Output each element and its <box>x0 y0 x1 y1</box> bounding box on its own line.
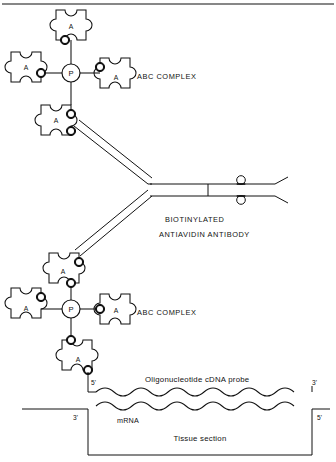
avidin-subunit-left-lower: A <box>5 288 47 318</box>
antibody-label-line1: BIOTINYLATED <box>165 215 224 224</box>
avidin-subunit-bottom-lower: A <box>56 335 98 374</box>
avidin-subunit-right-upper: A <box>94 58 136 88</box>
biotinylated-antiavidin-antibody: BIOTINYLATED ANTIAVIDIN ANTIBODY <box>74 120 288 256</box>
avidin-label: A <box>69 23 74 30</box>
fc-terminal-bottom <box>275 196 288 203</box>
avidin-label: A <box>61 268 66 275</box>
avidin-label: A <box>114 307 119 314</box>
avidin-subunit-top-lower: A <box>43 253 85 288</box>
mrna-three-prime-label: 3' <box>73 414 78 421</box>
cdna-probe-label: Oligonucleotide cDNA probe <box>145 375 249 384</box>
abc-complex-label-upper: ABC COMPLEX <box>137 72 196 81</box>
tissue-section-label: Tissue section <box>173 434 226 443</box>
abc-complex-label-lower: ABC COMPLEX <box>137 308 196 317</box>
avidin-subunit-top-upper: A <box>50 10 92 45</box>
avidin-subunit-right-lower: A <box>94 294 136 324</box>
fab-arm-lower-edge2 <box>75 190 148 250</box>
fab-arm-lower-edge1 <box>80 196 152 256</box>
fab-arm-upper-edge2 <box>79 120 152 178</box>
probe-linker: 5' <box>88 372 96 392</box>
avidin-label: A <box>24 305 29 312</box>
figure-canvas: A A A A <box>0 0 336 462</box>
abc-complex-lower: A A A A <box>5 253 196 375</box>
peroxidase-core-lower: P <box>62 300 80 318</box>
avidin-subunit-left-upper: A <box>5 52 47 82</box>
biotin-marker-top <box>237 176 246 185</box>
mrna-label: mRNA <box>117 416 139 425</box>
peroxidase-core-upper: P <box>62 64 80 82</box>
probe-three-prime-label: 3' <box>312 379 317 386</box>
antibody-label-line2: ANTIAVIDIN ANTIBODY <box>159 230 250 239</box>
avidin-label: A <box>24 64 29 71</box>
tissue-section-box: 3' 5' mRNA Tissue section <box>22 409 330 455</box>
avidin-label: A <box>76 356 81 363</box>
peroxidase-label: P <box>68 305 73 314</box>
fab-arm-upper-edge1 <box>74 126 148 184</box>
avidin-label: A <box>54 117 59 124</box>
ihc-ish-detection-diagram: A A A A <box>0 0 336 462</box>
avidin-subunit-bottom-upper: A <box>35 105 77 136</box>
peroxidase-label: P <box>68 69 73 78</box>
fc-terminal-top <box>275 177 288 184</box>
biotin-marker-bottom <box>237 196 246 205</box>
probe-five-prime-label: 5' <box>91 379 96 386</box>
abc-complex-upper: A A A A <box>5 10 196 136</box>
mrna-strand <box>96 402 294 410</box>
mrna-five-prime-label: 5' <box>317 414 322 421</box>
avidin-label: A <box>114 74 119 81</box>
